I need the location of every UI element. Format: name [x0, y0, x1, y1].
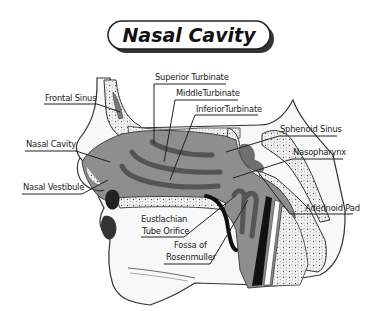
- svg-text:Tube Orifice: Tube Orifice: [141, 226, 189, 236]
- svg-text:Adednoid Pad: Adednoid Pad: [305, 203, 360, 213]
- svg-text:Rosenmuller: Rosenmuller: [166, 252, 217, 262]
- diagram-title: Nasal Cavity: [122, 24, 257, 46]
- nasal-cavity-diagram: Nasal Cavity: [0, 0, 376, 311]
- svg-text:Sphenoid Sinus: Sphenoid Sinus: [280, 124, 342, 134]
- svg-text:Nasal Vestibule: Nasal Vestibule: [23, 182, 84, 192]
- svg-text:InferiorTurbinate: InferiorTurbinate: [196, 104, 262, 114]
- title-banner: Nasal Cavity: [108, 21, 274, 53]
- svg-text:Eustlachian: Eustlachian: [141, 214, 187, 224]
- svg-text:Fossa of: Fossa of: [174, 240, 208, 250]
- svg-text:Nasal Cavity: Nasal Cavity: [26, 139, 76, 149]
- svg-text:Frontal Sinus: Frontal Sinus: [45, 93, 96, 103]
- svg-text:Nasopharynx: Nasopharynx: [293, 147, 346, 157]
- svg-text:Superior Turbinate: Superior Turbinate: [155, 72, 229, 82]
- svg-text:MiddleTurbinate: MiddleTurbinate: [176, 88, 240, 98]
